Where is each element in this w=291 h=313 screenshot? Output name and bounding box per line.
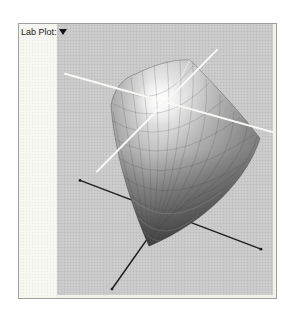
plot-area[interactable] (57, 24, 273, 295)
screenshot-root: Lab Plot: (0, 0, 291, 313)
sidebar: Lab Plot: (19, 24, 57, 298)
axis-endpoint-dot (79, 179, 82, 182)
lab-plot-panel: Lab Plot: (18, 23, 277, 299)
dropdown-arrow-icon[interactable] (59, 29, 67, 35)
lab-plot-label: Lab Plot: (21, 27, 57, 37)
axis-endpoint-dot (260, 248, 263, 251)
surface-shading (57, 24, 273, 295)
gamut-surface (57, 24, 273, 295)
gamut-3d-plot (57, 24, 273, 295)
axis-endpoint-dot (111, 288, 114, 291)
